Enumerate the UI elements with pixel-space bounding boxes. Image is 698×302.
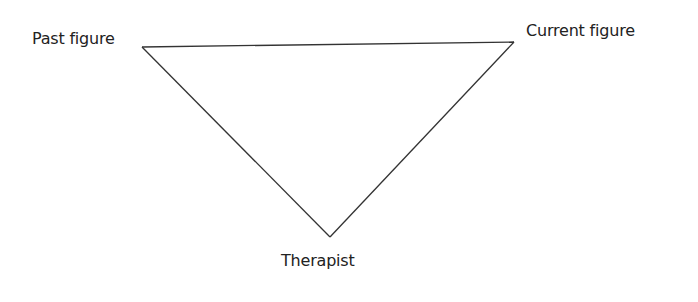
triangle-diagram: Past figure Current figure Therapist (0, 0, 698, 302)
edge-past-therapist (142, 47, 330, 237)
edge-current-therapist (330, 42, 514, 237)
edge-past-current (142, 42, 514, 47)
label-current-figure: Current figure (526, 21, 635, 40)
label-therapist: Therapist (281, 251, 355, 270)
label-past-figure: Past figure (32, 29, 115, 48)
